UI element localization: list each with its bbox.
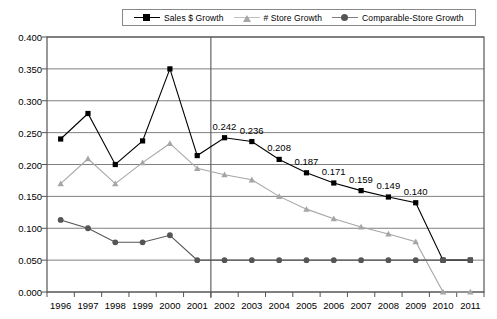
x-axis-label: 1998 [105, 300, 126, 311]
data-point-marker [413, 257, 419, 263]
data-point-marker [222, 257, 228, 263]
x-axis-label: 2004 [269, 300, 290, 311]
data-point-label: 0.159 [349, 174, 373, 185]
x-axis-label: 2005 [296, 300, 317, 311]
legend-label-comparable-store-growth: Comparable-Store Growth [362, 13, 464, 23]
x-axis-label: 1996 [50, 300, 71, 311]
x-axis-label: 2007 [351, 300, 372, 311]
legend-label-sales-growth: Sales $ Growth [164, 13, 224, 23]
data-point-marker [304, 257, 310, 263]
data-point-marker [277, 157, 282, 162]
data-point-marker [249, 139, 254, 144]
x-axis-label: 2009 [405, 300, 426, 311]
data-point-label: 0.236 [240, 125, 264, 136]
data-point-marker [85, 111, 90, 116]
y-axis-label: 0.150 [0, 191, 42, 202]
data-point-marker [358, 188, 363, 193]
x-axis-label: 1999 [132, 300, 153, 311]
data-point-marker [112, 239, 118, 245]
data-point-marker [58, 136, 63, 141]
y-axis-label: 0.250 [0, 127, 42, 138]
data-point-label: 0.187 [294, 156, 318, 167]
x-axis-label: 2008 [378, 300, 399, 311]
x-axis-label: 1997 [77, 300, 98, 311]
data-point-marker [386, 257, 392, 263]
data-point-marker [358, 257, 364, 263]
data-point-marker [276, 257, 282, 263]
legend-marker-circle-icon [332, 13, 358, 23]
data-point-label: 0.242 [213, 121, 237, 132]
y-axis-label: 0.200 [0, 159, 42, 170]
data-point-marker [440, 257, 446, 263]
data-point-marker [386, 194, 391, 199]
legend-marker-triangle-icon [234, 13, 260, 23]
x-axis-label: 2000 [159, 300, 180, 311]
x-axis-label: 2002 [214, 300, 235, 311]
line-chart: Sales $ Growth # Store Growth Comparable… [0, 0, 497, 319]
data-point-label: 0.208 [267, 142, 291, 153]
y-axis-label: 0.000 [0, 287, 42, 298]
data-point-marker [222, 135, 227, 140]
data-point-marker [140, 138, 145, 143]
y-axis-label: 0.400 [0, 32, 42, 43]
data-point-marker [195, 153, 200, 158]
data-point-marker [331, 180, 336, 185]
data-point-marker [413, 200, 418, 205]
y-axis-label: 0.100 [0, 223, 42, 234]
x-axis-label: 2011 [460, 300, 480, 311]
x-axis-label: 2010 [432, 300, 453, 311]
legend-label-store-growth: # Store Growth [264, 13, 323, 23]
y-axis-label: 0.350 [0, 63, 42, 74]
legend-item-store-growth: # Store Growth [234, 13, 323, 23]
legend-item-comparable-store-growth: Comparable-Store Growth [332, 13, 464, 23]
y-axis-label: 0.050 [0, 255, 42, 266]
x-axis-label: 2003 [241, 300, 262, 311]
data-point-marker [140, 239, 146, 245]
data-point-marker [194, 257, 200, 263]
x-axis-label: 2001 [187, 300, 208, 311]
data-point-marker [58, 217, 64, 223]
plot-area [0, 0, 497, 319]
data-point-marker [85, 225, 91, 231]
chart-legend: Sales $ Growth # Store Growth Comparable… [122, 9, 476, 26]
data-point-marker [467, 257, 473, 263]
data-point-label: 0.149 [376, 180, 400, 191]
x-axis-label: 2006 [323, 300, 344, 311]
legend-item-sales-growth: Sales $ Growth [134, 13, 224, 23]
legend-marker-square-icon [134, 13, 160, 23]
data-point-marker [304, 170, 309, 175]
data-point-marker [113, 162, 118, 167]
data-point-label: 0.140 [404, 186, 428, 197]
data-point-marker [249, 257, 255, 263]
data-point-label: 0.171 [322, 166, 346, 177]
data-point-marker [167, 66, 172, 71]
data-point-marker [331, 257, 337, 263]
y-axis-label: 0.300 [0, 95, 42, 106]
data-point-marker [167, 232, 173, 238]
